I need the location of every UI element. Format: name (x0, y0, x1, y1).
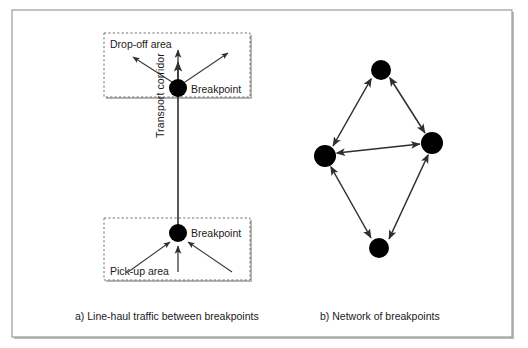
caption-panel-a: a) Line-haul traffic between breakpoints (75, 311, 259, 322)
figure-frame (12, 10, 512, 337)
network-node-top (371, 60, 391, 80)
breakpoint-bottom-label: Breakpoint (191, 228, 241, 239)
network-node-left (314, 145, 336, 167)
breakpoint-top-label: Breakpoint (191, 84, 241, 95)
breakpoint-node-bottom (169, 224, 187, 242)
network-node-bottom (369, 238, 389, 258)
dropoff-area-label: Drop-off area (110, 39, 172, 50)
pickup-area-label: Pick-up area (110, 266, 169, 277)
caption-panel-b: b) Network of breakpoints (320, 311, 440, 322)
breakpoint-node-top (169, 79, 187, 97)
figure-container: Drop-off area Breakpoint Transport corri… (0, 0, 528, 348)
figure-canvas (0, 0, 528, 348)
transport-corridor-label: Transport corridor (155, 53, 166, 138)
network-node-right (421, 132, 443, 154)
